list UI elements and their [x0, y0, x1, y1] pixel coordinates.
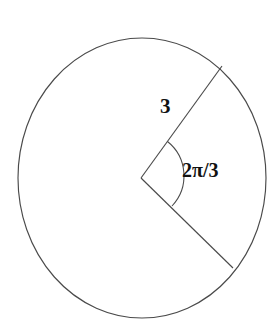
figure-canvas: 3 2π/3	[0, 0, 280, 321]
circle-outline-icon	[18, 38, 266, 318]
circle-sector-figure	[0, 0, 280, 321]
radius-line-lower-icon	[141, 178, 233, 268]
central-angle-label: 2π/3	[182, 160, 219, 180]
radius-length-label: 3	[160, 96, 171, 117]
